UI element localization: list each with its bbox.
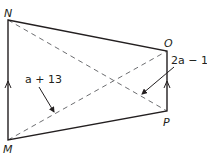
pointer-arrow-a13-icon xyxy=(39,87,54,112)
expression-diagonal-mo: a + 13 xyxy=(25,73,62,86)
expression-diagonal-np: 2a − 1 xyxy=(171,54,207,67)
vertex-label-n: N xyxy=(4,7,12,20)
vertex-label-p: P xyxy=(163,116,170,129)
diagonal-mo xyxy=(8,51,167,140)
pointer-arrow-2a1-icon xyxy=(142,67,174,94)
trapezoid-diagram: N O P M a + 13 2a − 1 xyxy=(0,0,207,159)
diagonal-np xyxy=(8,20,167,111)
vertex-label-o: O xyxy=(164,37,173,50)
vertex-label-m: M xyxy=(3,143,13,156)
